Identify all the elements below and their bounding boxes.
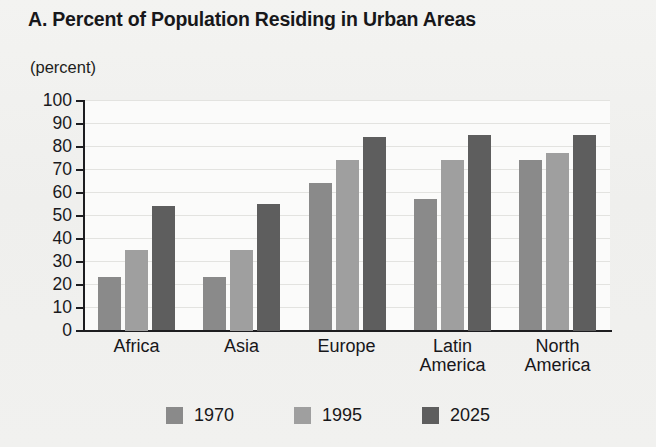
x-axis-label-line: America <box>400 356 505 375</box>
x-axis-label-line: Europe <box>294 337 399 356</box>
x-axis-category-label-africa: Africa <box>84 337 189 356</box>
bar-europe-2025 <box>363 137 386 330</box>
bar-africa-2025 <box>152 206 175 330</box>
x-axis-line <box>83 330 612 332</box>
y-axis-tick-label: 60 <box>12 182 72 203</box>
x-axis-category-label-europe: Europe <box>294 337 399 356</box>
y-axis-tick-label: 80 <box>12 136 72 157</box>
legend-label-1970: 1970 <box>194 405 234 426</box>
y-axis-tick-label: 20 <box>12 274 72 295</box>
legend-label-2025: 2025 <box>450 405 490 426</box>
y-axis-tick-label: 10 <box>12 297 72 318</box>
x-axis-label-line: North <box>505 337 610 356</box>
legend-item-1970[interactable]: 1970 <box>166 405 234 426</box>
bar-north-america-1970 <box>519 160 542 330</box>
x-axis-label-line: Latin <box>400 337 505 356</box>
legend-swatch-1970 <box>166 407 183 424</box>
chart-plot-wrapper: 0102030405060708090100 AfricaAsiaEuropeL… <box>0 0 656 447</box>
bar-north-america-2025 <box>573 135 596 331</box>
y-axis-tick-label: 70 <box>12 159 72 180</box>
x-axis-category-label-latin-america: LatinAmerica <box>400 337 505 376</box>
x-axis-label-line: Africa <box>84 337 189 356</box>
bar-asia-2025 <box>257 204 280 331</box>
legend-label-1995: 1995 <box>322 405 362 426</box>
y-axis-tick-label: 30 <box>12 251 72 272</box>
bar-asia-1970 <box>203 277 226 330</box>
bar-europe-1970 <box>309 183 332 330</box>
x-axis-label-line: America <box>505 356 610 375</box>
bar-europe-1995 <box>336 160 359 330</box>
bar-latin-america-1995 <box>441 160 464 330</box>
bar-africa-1970 <box>98 277 121 330</box>
y-axis-line <box>83 100 85 331</box>
legend-item-2025[interactable]: 2025 <box>422 405 490 426</box>
bar-latin-america-1970 <box>414 199 437 330</box>
y-axis-tick-label: 0 <box>12 320 72 341</box>
x-axis-category-label-north-america: NorthAmerica <box>505 337 610 376</box>
chart-legend: 197019952025 <box>0 405 656 426</box>
bar-north-america-1995 <box>546 153 569 330</box>
legend-item-1995[interactable]: 1995 <box>294 405 362 426</box>
bar-asia-1995 <box>230 250 253 331</box>
legend-swatch-2025 <box>422 407 439 424</box>
bar-latin-america-2025 <box>468 135 491 331</box>
bar-africa-1995 <box>125 250 148 331</box>
y-axis-tick-label: 100 <box>12 90 72 111</box>
legend-swatch-1995 <box>294 407 311 424</box>
y-axis-tick-label: 40 <box>12 228 72 249</box>
y-axis-tick-label: 90 <box>12 113 72 134</box>
x-axis-category-label-asia: Asia <box>189 337 294 356</box>
x-axis-label-line: Asia <box>189 337 294 356</box>
y-axis-tick-label: 50 <box>12 205 72 226</box>
